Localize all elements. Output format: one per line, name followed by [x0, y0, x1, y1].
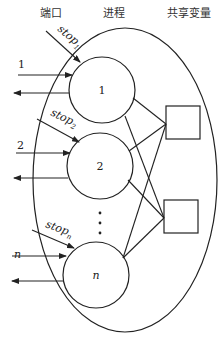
stop-label-n: stopn — [43, 218, 75, 242]
system-boundary-ellipse — [33, 28, 217, 332]
port-label-2: 2 — [17, 139, 24, 152]
process-label-1: 1 — [99, 84, 106, 97]
port-label-n: n — [14, 248, 21, 261]
process-port-diagram: 端口 进程 共享变量 1 2 n stop1 1 — [0, 0, 223, 341]
ports-process-1: stop1 1 — [14, 22, 85, 93]
ports-process-2: stop2 2 — [14, 106, 80, 178]
process-n: n — [63, 242, 129, 308]
port-label-1: 1 — [18, 58, 25, 71]
shared-variable-box-2 — [164, 200, 198, 233]
header-ports: 端口 — [40, 7, 62, 20]
process-label-n: n — [92, 269, 99, 282]
shared-variable-box-1 — [166, 106, 200, 139]
ellipsis-dots — [99, 212, 102, 235]
header-processes: 进程 — [103, 7, 125, 20]
process-label-2: 2 — [97, 160, 104, 173]
process-2: 2 — [67, 133, 133, 199]
process-1: 1 — [69, 57, 135, 123]
shared-variable-links — [123, 98, 166, 258]
header-shared-variables: 共享变量 — [167, 6, 211, 20]
